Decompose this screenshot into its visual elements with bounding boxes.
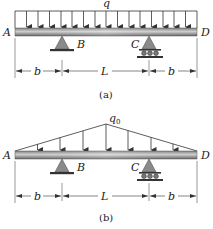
pin-support-b [50, 159, 74, 174]
point-label-a: A [2, 149, 11, 162]
uniform-load [15, 11, 197, 28]
pin-support-b [50, 36, 74, 51]
load-arrows [27, 11, 186, 27]
dim-label-b-right: b [168, 65, 175, 78]
beam-diagram: q [0, 0, 213, 229]
point-label-d: D [200, 26, 210, 39]
dim-label-b-left: b [34, 65, 41, 78]
roller-support-c [137, 36, 163, 58]
dim-label-l: L [100, 190, 108, 203]
figure-caption-a: (a) [99, 89, 113, 100]
point-label-c: C [131, 38, 140, 51]
point-label-d: D [200, 149, 210, 162]
dim-label-l: L [100, 65, 108, 78]
dim-label-b-left: b [34, 190, 41, 203]
load-label-q0: q0 [109, 112, 121, 126]
figure-a: q [2, 0, 210, 100]
point-label-a: A [2, 26, 11, 39]
point-label-b: B [76, 161, 85, 174]
figure-caption-b: (b) [99, 212, 113, 223]
point-label-b: B [76, 38, 85, 51]
load-label-q: q [103, 0, 110, 10]
dim-label-b-right: b [168, 190, 175, 203]
load-arrows [38, 124, 174, 150]
triangular-load [15, 124, 197, 151]
figure-b: q0 A D B C [2, 112, 210, 223]
point-label-c: C [131, 161, 140, 174]
roller-support-c [137, 159, 163, 181]
